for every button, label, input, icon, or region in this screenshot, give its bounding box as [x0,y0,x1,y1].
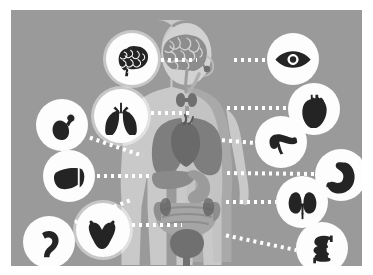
stomach-icon [323,157,360,194]
organ-node-kidneys[interactable]: Kidneys [276,176,328,228]
organ-node-eye[interactable]: Eye [267,33,319,85]
pancreas-icon [263,124,300,161]
organ-node-liver[interactable]: Liver [43,150,95,202]
brain-icon [114,41,151,78]
organ-node-brain[interactable]: Brain [106,33,158,85]
organ-node-pancreas[interactable]: Pancreas [255,116,307,168]
kidneys-icon [284,184,321,221]
colon-icon [31,224,68,261]
organ-node-uterus[interactable]: Uterus [76,203,130,257]
intestine-icon [304,230,341,267]
organ-node-colon[interactable]: Colon [23,216,75,266]
lungs-icon [102,97,140,135]
uterus-icon [84,211,122,249]
heart-icon [296,91,333,128]
organ-infographic: BrainEyeHeartGallbladderLungsPancreasLiv… [0,0,373,275]
eye-icon [275,41,312,78]
infographic-stage: BrainEyeHeartGallbladderLungsPancreasLiv… [11,10,362,266]
organ-node-intestine[interactable]: Small intestine [296,222,348,266]
organ-node-lungs[interactable]: Lungs [94,89,148,143]
organ-node-gallbladder[interactable]: Gallbladder [36,99,88,151]
liver-icon [51,158,88,195]
gallbladder-icon [44,107,81,144]
